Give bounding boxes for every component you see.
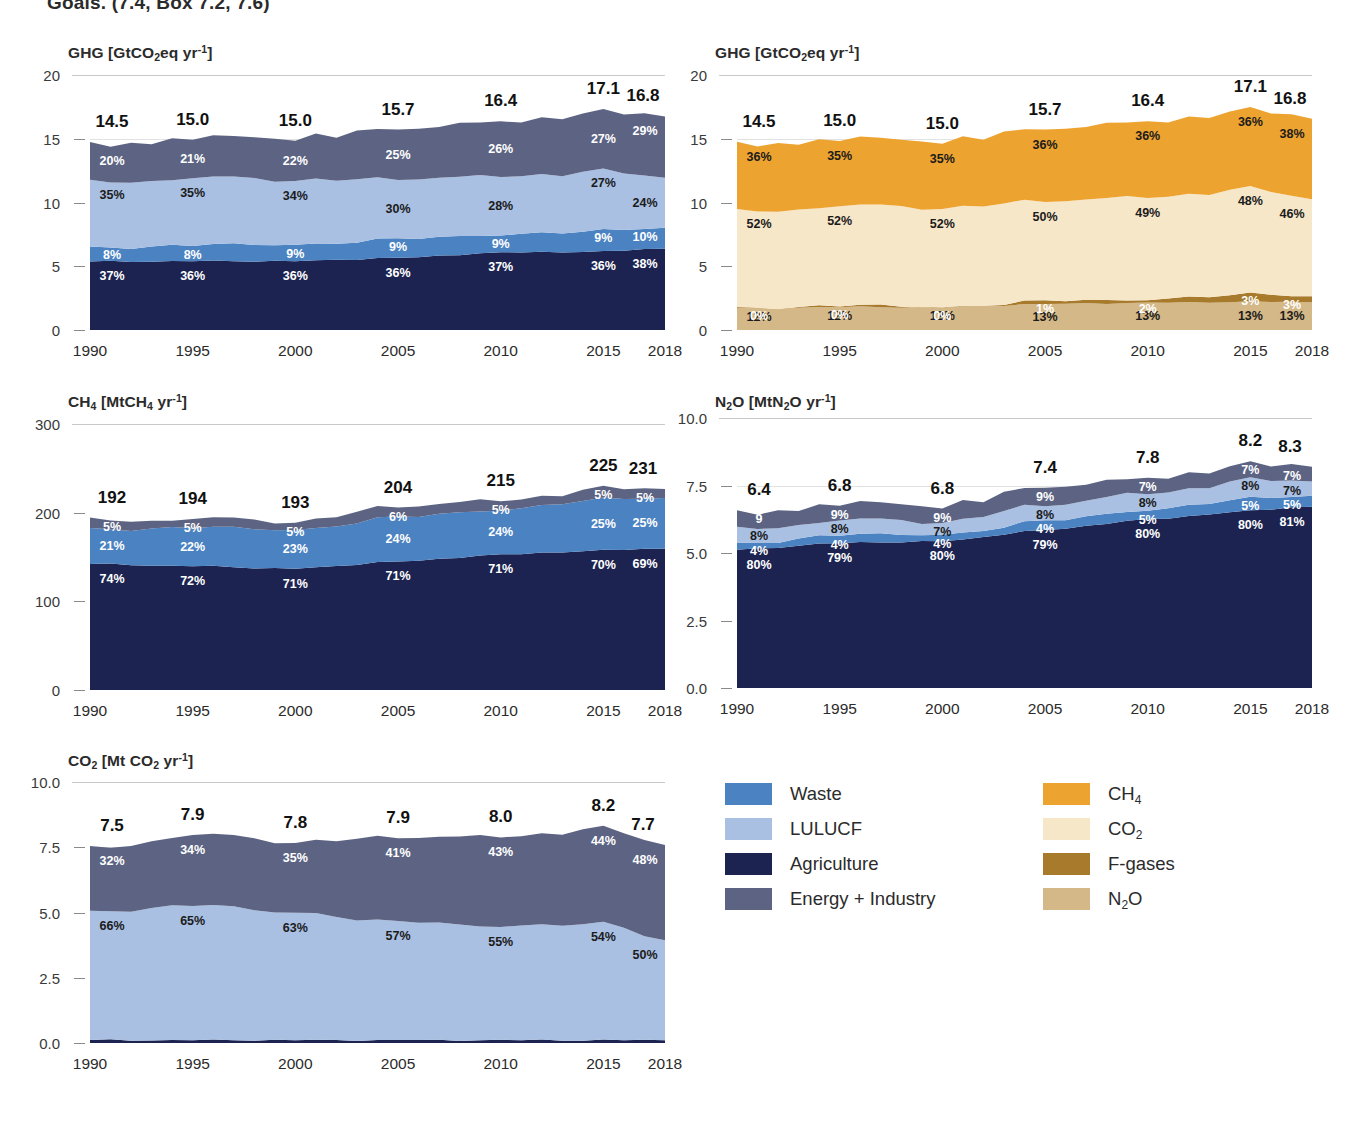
legend-label: Waste <box>790 783 842 805</box>
percentage-label: 35% <box>930 152 955 166</box>
legend-item-energy-industry[interactable]: Energy + Industry <box>725 888 936 910</box>
percentage-label: 36% <box>1238 115 1263 129</box>
y-axis-tick-mark <box>721 688 732 689</box>
stacked-area-plot <box>90 782 665 1045</box>
total-value-label: 15.0 <box>176 110 209 130</box>
total-value-label: 6.8 <box>931 479 955 499</box>
y-axis-tick-label: 2.5 <box>653 612 707 629</box>
percentage-label: 37% <box>488 260 513 274</box>
percentage-label: 3% <box>1283 298 1301 312</box>
x-axis-tick-label: 2005 <box>381 702 415 720</box>
legend-label: LULUCF <box>790 818 862 840</box>
y-axis-tick-mark <box>721 203 732 204</box>
legend-item-agriculture[interactable]: Agriculture <box>725 853 878 875</box>
percentage-label: 3% <box>1241 294 1259 308</box>
y-axis-tick-label: 0 <box>6 322 60 339</box>
y-axis-tick-label: 15 <box>653 130 707 147</box>
total-value-label: 204 <box>384 478 412 498</box>
total-value-label: 192 <box>98 488 126 508</box>
clipped-caption: Goals. (7.4, Box 7.2, 7.6) <box>47 0 647 14</box>
legend-item-n2o[interactable]: N2O <box>1043 888 1142 910</box>
percentage-label: 8% <box>831 522 849 536</box>
chart-axis-title: CH4 [MtCH4 yr-1] <box>68 393 187 411</box>
percentage-label: 80% <box>1238 518 1263 532</box>
x-axis-tick-label: 2000 <box>278 1055 312 1073</box>
percentage-label: 36% <box>591 259 616 273</box>
percentage-label: 23% <box>283 542 308 556</box>
legend-label: Agriculture <box>790 853 878 875</box>
y-axis-tick-label: 0 <box>653 322 707 339</box>
legend-item-ch4[interactable]: CH4 <box>1043 783 1141 805</box>
total-value-label: 15.0 <box>926 114 959 134</box>
percentage-label: 80% <box>1135 527 1160 541</box>
legend-swatch-energy-industry <box>725 888 772 910</box>
y-axis-tick-label: 200 <box>6 504 60 521</box>
total-value-label: 194 <box>178 489 206 509</box>
y-axis-tick-label: 5 <box>6 258 60 275</box>
y-axis-tick-label: 5 <box>653 258 707 275</box>
legend-item-f-gases[interactable]: F-gases <box>1043 853 1175 875</box>
x-axis-tick-label: 2018 <box>648 1055 682 1073</box>
percentage-label: 9% <box>594 231 612 245</box>
percentage-label: 28% <box>488 199 513 213</box>
percentage-label: 25% <box>591 517 616 531</box>
chart-axis-title: GHG [GtCO2eq yr-1] <box>715 44 859 62</box>
percentage-label: 8% <box>1036 508 1054 522</box>
percentage-label: 8% <box>184 248 202 262</box>
x-axis-tick-label: 2018 <box>648 702 682 720</box>
total-value-label: 225 <box>589 456 617 476</box>
y-axis-tick-label: 0.0 <box>653 680 707 697</box>
percentage-label: 21% <box>99 539 124 553</box>
percentage-label: 27% <box>591 176 616 190</box>
x-axis-tick-label: 2000 <box>925 700 959 718</box>
legend-item-lulucf[interactable]: LULUCF <box>725 818 862 840</box>
percentage-label: 36% <box>180 269 205 283</box>
y-axis-tick-label: 20 <box>6 67 60 84</box>
y-axis-tick-label: 7.5 <box>6 839 60 856</box>
y-axis-tick-mark <box>74 1043 85 1044</box>
legend-item-waste[interactable]: Waste <box>725 783 842 805</box>
x-axis-tick-label: 2018 <box>1295 342 1329 360</box>
percentage-label: 2% <box>1139 302 1157 316</box>
total-value-label: 17.1 <box>1234 77 1267 97</box>
total-value-label: 7.7 <box>631 815 655 835</box>
legend-swatch-n2o <box>1043 888 1090 910</box>
percentage-label: 71% <box>386 569 411 583</box>
percentage-label: 79% <box>1033 538 1058 552</box>
percentage-label: 5% <box>103 520 121 534</box>
percentage-label: 21% <box>180 152 205 166</box>
x-axis-tick-label: 1990 <box>73 702 107 720</box>
x-axis-tick-label: 2018 <box>648 342 682 360</box>
area-series-lulucf <box>90 905 665 1041</box>
legend-item-co2[interactable]: CO2 <box>1043 818 1142 840</box>
percentage-label: 27% <box>591 132 616 146</box>
y-axis-tick-label: 7.5 <box>653 477 707 494</box>
y-axis-tick-label: 15 <box>6 130 60 147</box>
x-axis-tick-label: 2005 <box>381 342 415 360</box>
percentage-label: 65% <box>180 914 205 928</box>
percentage-label: 5% <box>636 491 654 505</box>
total-value-label: 6.4 <box>747 480 771 500</box>
total-value-label: 7.9 <box>386 808 410 828</box>
x-axis-tick-label: 2010 <box>483 702 517 720</box>
x-axis-tick-label: 2015 <box>586 342 620 360</box>
percentage-label: 52% <box>746 217 771 231</box>
x-axis-tick-label: 1995 <box>175 702 209 720</box>
percentage-label: 32% <box>99 854 124 868</box>
legend-swatch-lulucf <box>725 818 772 840</box>
percentage-label: 37% <box>99 269 124 283</box>
percentage-label: 4% <box>1036 522 1054 536</box>
percentage-label: 5% <box>1241 499 1259 513</box>
y-axis-tick-label: 0 <box>6 682 60 699</box>
percentage-label: 48% <box>632 853 657 867</box>
percentage-label: 34% <box>180 843 205 857</box>
y-axis-tick-label: 10 <box>653 194 707 211</box>
y-axis-tick-mark <box>74 203 85 204</box>
x-axis-tick-label: 2010 <box>483 1055 517 1073</box>
percentage-label: 48% <box>1238 194 1263 208</box>
total-value-label: 8.3 <box>1278 437 1302 457</box>
percentage-label: 7% <box>933 525 951 539</box>
y-axis-tick-mark <box>721 330 732 331</box>
percentage-label: 72% <box>180 574 205 588</box>
percentage-label: 26% <box>488 142 513 156</box>
